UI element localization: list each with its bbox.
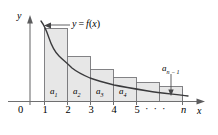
origin-label: 0 — [18, 104, 23, 115]
x-tick-label-2: 2 — [65, 104, 70, 115]
curve-label-close-paren: ) — [97, 18, 100, 29]
x-tick-label-3: 3 — [88, 104, 93, 115]
y-axis-arrowhead — [27, 15, 33, 24]
x-tick-label-1: 1 — [42, 104, 47, 115]
x-tick-label-5: 5 — [134, 104, 139, 115]
bar-label-2-sub: 2 — [78, 92, 81, 98]
bar-label-3-sub: 3 — [101, 92, 104, 98]
bar-label-1-sub: 1 — [55, 92, 58, 98]
y-axis — [27, 15, 33, 105]
bar-label-4-sub: 4 — [124, 92, 127, 98]
curve-label-leader — [44, 23, 70, 29]
y-axis-label: y — [17, 10, 21, 21]
curve-label-y: y — [72, 18, 76, 29]
x-axis-label: x — [197, 105, 201, 116]
x-axis-arrowhead — [197, 99, 206, 105]
x-tick-label-n: n — [181, 104, 186, 115]
x-axis-ellipsis: · · · — [145, 103, 167, 114]
integral-test-figure: y x 0 1 2 3 4 5 n · · · y=f(x) a1 a2 a3 — [0, 0, 218, 135]
an-label-sub: n − 1 — [167, 69, 180, 75]
x-tick-label-4: 4 — [111, 104, 116, 115]
curve-label-equals: = — [78, 18, 84, 29]
